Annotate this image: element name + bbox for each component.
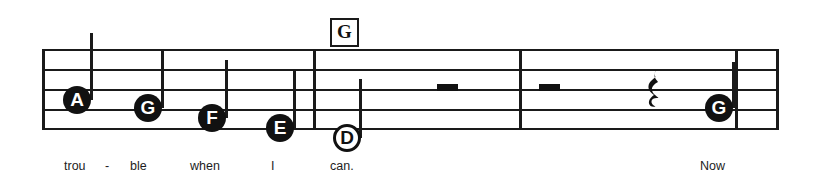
note-stem-a xyxy=(90,33,93,100)
music-notation-sheet: G A G F E D G trou - ble when I can. Now xyxy=(0,0,814,190)
lyric-hyphen: - xyxy=(105,159,109,173)
quarter-rest-icon[interactable] xyxy=(643,68,665,116)
staff-line-1 xyxy=(42,49,779,51)
staff-start-barline xyxy=(42,49,45,130)
note-stem-f xyxy=(225,60,228,118)
note-stem-g2 xyxy=(732,62,735,108)
chord-symbol-g[interactable]: G xyxy=(330,18,359,47)
staff-line-3 xyxy=(42,89,779,91)
note-stem-d xyxy=(359,79,362,138)
notehead-f[interactable]: F xyxy=(198,104,226,132)
notehead-g1[interactable]: G xyxy=(134,94,162,122)
lyric-syllable: trou xyxy=(64,159,86,173)
bar-rest-2[interactable] xyxy=(539,84,560,91)
note-stem-g1 xyxy=(161,49,164,108)
staff-end-barline xyxy=(776,49,779,130)
lyric-syllable: I xyxy=(271,159,274,173)
lyric-syllable: ble xyxy=(130,159,147,173)
barline-3 xyxy=(735,49,738,130)
lyric-syllable: Now xyxy=(700,159,725,173)
lyric-syllable: when xyxy=(190,159,220,173)
notehead-g2[interactable]: G xyxy=(705,94,733,122)
bar-rest-1[interactable] xyxy=(437,84,458,91)
barline-2 xyxy=(519,49,522,130)
barline-1 xyxy=(313,49,316,130)
notehead-a[interactable]: A xyxy=(63,86,91,114)
lyric-syllable: can. xyxy=(330,159,354,173)
staff-line-5 xyxy=(42,128,779,130)
notehead-d[interactable]: D xyxy=(333,124,361,152)
notehead-e[interactable]: E xyxy=(266,114,294,142)
staff-line-2 xyxy=(42,69,779,71)
note-stem-e xyxy=(293,70,296,128)
